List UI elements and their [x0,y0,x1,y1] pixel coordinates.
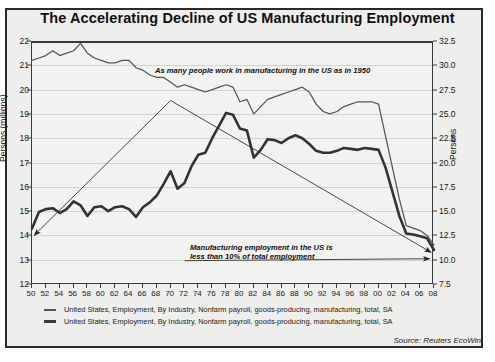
y-tick-left [27,186,31,187]
x-tick-label: 72 [179,289,188,298]
x-tick [225,284,226,288]
y-tick-label-left: 22 [3,36,29,46]
y-tick-left [27,162,31,163]
x-tick-label: 54 [54,289,63,298]
x-tick-label: 70 [165,289,174,298]
x-tick [73,284,74,288]
x-tick-label: 64 [124,289,133,298]
x-tick [294,284,295,288]
x-tick-label: 94 [332,289,341,298]
y-tick-left [27,138,31,139]
y-tick-left [27,89,31,90]
x-tick [142,284,143,288]
x-tick [86,284,87,288]
y-tick-label-left: 20 [3,85,29,95]
y-tick-label-left: 21 [3,60,29,70]
annotation-2: Manufacturing employment in the US is le… [190,243,333,262]
chart-title: The Accelerating Decline of US Manufactu… [0,10,495,26]
x-tick [322,284,323,288]
x-tick-label: 08 [429,289,438,298]
y-tick-label-right: 12.5 [439,230,469,240]
x-tick-label: 06 [415,289,424,298]
annotation-1: As many people work in manufacturing in … [155,66,370,75]
x-tick [59,284,60,288]
x-tick-label: 60 [96,289,105,298]
y-tick-label-left: 16 [3,182,29,192]
y-tick-right [433,259,437,260]
x-tick [170,284,171,288]
y-tick-right [433,235,437,236]
source-credit: Source: Reuters EcoWin [393,336,481,345]
x-tick-label: 90 [304,289,313,298]
y-tick-label-left: 17 [3,158,29,168]
legend-item: United States, Employment, By Industry, … [44,305,464,314]
y-tick-left [27,259,31,260]
y-tick-label-right: 32.5 [439,36,469,46]
x-tick-label: 52 [40,289,49,298]
legend-label: United States, Employment, By Industry, … [64,317,393,326]
x-tick-label: 02 [387,289,396,298]
x-tick [114,284,115,288]
y-tick-left [27,284,31,285]
y-tick-left [27,211,31,212]
x-tick [391,284,392,288]
x-tick-label: 58 [82,289,91,298]
y-tick-label-left: 15 [3,206,29,216]
x-tick [183,284,184,288]
x-tick-label: 84 [262,289,271,298]
x-tick [211,284,212,288]
chart-legend: United States, Employment, By Industry, … [44,305,464,329]
y-tick-left [27,41,31,42]
x-tick [128,284,129,288]
chart-page: The Accelerating Decline of US Manufactu… [0,0,495,362]
x-tick-label: 62 [110,289,119,298]
y-tick-label-left: 14 [3,230,29,240]
y-tick-label-left: 12 [3,279,29,289]
x-tick-label: 98 [359,289,368,298]
y-tick-label-right: 27.5 [439,85,469,95]
y-tick-right [433,138,437,139]
y-tick-label-left: 19 [3,109,29,119]
y-tick-label-right: 20.0 [439,158,469,168]
x-tick [378,284,379,288]
y-tick-label-right: 10.0 [439,255,469,265]
y-tick-label-right: 17.5 [439,182,469,192]
y-tick-label-right: 15.0 [439,206,469,216]
annotation-arrow-left [34,101,171,236]
x-tick [364,284,365,288]
y-tick-left [27,235,31,236]
x-tick [156,284,157,288]
y-tick-right [433,65,437,66]
x-tick [433,284,434,288]
annotation-2-line1: Manufacturing employment in the US is [190,243,333,252]
y-axis-left-label: Persons (millions) [0,94,8,162]
series-line-thick [32,113,434,250]
x-tick [281,284,282,288]
legend-swatch-thick [44,320,56,323]
y-tick-right [433,113,437,114]
x-tick-label: 80 [234,289,243,298]
x-tick-label: 56 [68,289,77,298]
y-tick-label-right: 30.0 [439,60,469,70]
y-tick-label-left: 18 [3,133,29,143]
annotation-arrow-right [171,101,432,253]
legend-swatch-thin [44,309,56,311]
legend-label: United States, Employment, By Industry, … [64,305,393,314]
y-tick-label-right: 25.0 [439,109,469,119]
y-tick-left [27,113,31,114]
x-tick [336,284,337,288]
x-tick-label: 66 [137,289,146,298]
x-tick-label: 04 [401,289,410,298]
x-tick [419,284,420,288]
x-tick [350,284,351,288]
x-tick [308,284,309,288]
x-tick [100,284,101,288]
x-tick-label: 78 [221,289,230,298]
x-tick-label: 82 [248,289,257,298]
y-tick-right [433,186,437,187]
x-tick-label: 92 [318,289,327,298]
y-tick-right [433,41,437,42]
x-tick-label: 86 [276,289,285,298]
x-tick [45,284,46,288]
y-tick-right [433,284,437,285]
